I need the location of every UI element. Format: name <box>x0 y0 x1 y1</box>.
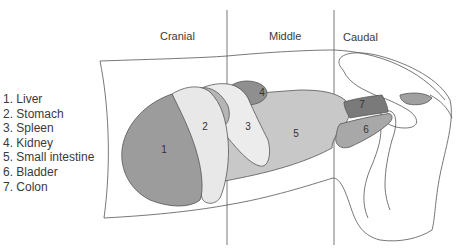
organ-label-bladder: 6 <box>363 124 369 135</box>
organ-label-kidney: 4 <box>259 87 265 98</box>
organ-label-small-intestine: 5 <box>293 128 299 139</box>
organ-legend: 1. Liver 2. Stomach 3. Spleen 4. Kidney … <box>3 92 94 194</box>
organ-label-stomach: 2 <box>202 121 208 132</box>
tail-outline <box>430 95 452 118</box>
region-label-cranial: Cranial <box>160 30 195 42</box>
legend-item-spleen: 3. Spleen <box>3 121 94 136</box>
legend-item-bladder: 6. Bladder <box>3 165 94 180</box>
legend-item-liver: 1. Liver <box>3 92 94 107</box>
pelvic-structure <box>400 93 432 105</box>
region-label-middle: Middle <box>269 30 301 42</box>
legend-item-small-intestine: 5. Small intestine <box>3 150 94 165</box>
organ-label-liver: 1 <box>161 144 167 155</box>
region-label-caudal: Caudal <box>343 31 378 43</box>
body-outline-left <box>100 61 108 218</box>
legend-item-kidney: 4. Kidney <box>3 136 94 151</box>
organ-label-spleen: 3 <box>245 121 251 132</box>
organ-label-colon: 7 <box>359 99 365 110</box>
legend-item-colon: 7. Colon <box>3 180 94 195</box>
legend-item-stomach: 2. Stomach <box>3 107 94 122</box>
